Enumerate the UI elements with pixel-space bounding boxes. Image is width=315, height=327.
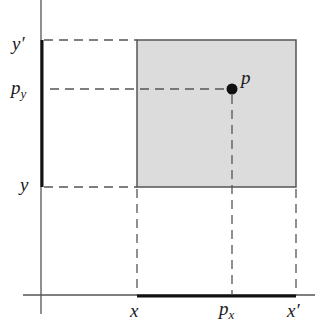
y-max-label: y′ [10,33,25,54]
point-p-label: p [239,67,251,88]
py-label-sub: y [19,86,27,101]
x-max-label: x′ [286,300,300,321]
px-label: px [217,298,235,322]
py-label: py [9,77,27,101]
px-label-sub: x [228,307,235,322]
point-p [227,84,238,95]
rectangle-point-diagram: p y′ py y x px x′ [0,0,315,327]
shaded-rectangle [137,40,296,187]
x-min-label: x [129,300,139,321]
px-label-main: p [217,298,229,319]
py-label-main: p [9,77,21,98]
y-min-label: y [18,174,29,195]
